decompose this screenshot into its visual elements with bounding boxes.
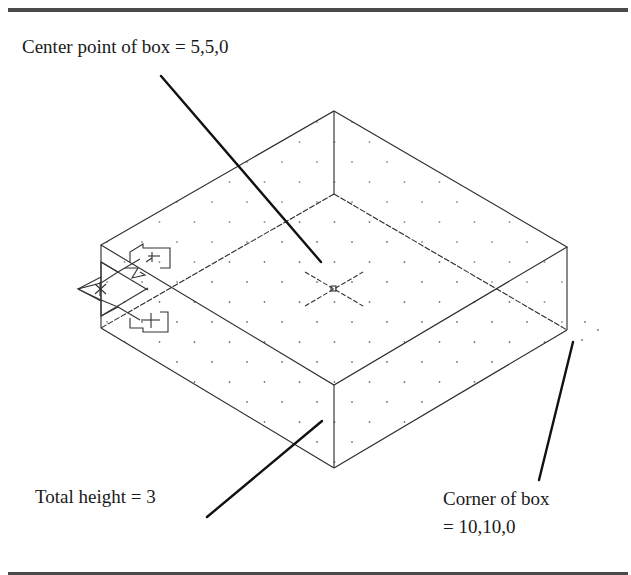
- corner-label-line1: Corner of box: [443, 488, 550, 510]
- leader-height: [207, 421, 322, 517]
- center-point-label: Center point of box = 5,5,0: [22, 36, 229, 58]
- leader-corner: [539, 342, 573, 480]
- total-height-label: Total height = 3: [35, 486, 156, 508]
- corner-label-line2: = 10,10,0: [443, 516, 515, 538]
